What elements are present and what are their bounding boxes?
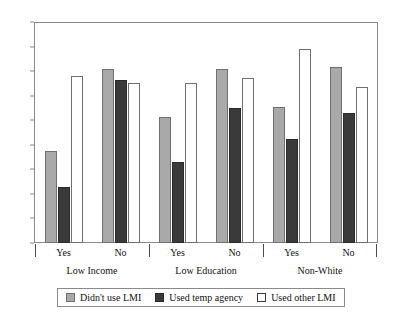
x-axis-group-separator — [149, 244, 150, 257]
bar — [286, 139, 298, 243]
x-axis-group-label: Non-White — [298, 265, 343, 276]
y-axis-tick-mark — [30, 95, 34, 96]
y-axis-tick-mark — [30, 144, 34, 145]
x-axis-group-label: Low Education — [175, 265, 236, 276]
x-axis-group-label: Low Income — [67, 265, 118, 276]
legend-item: Didn't use LMI — [66, 292, 141, 303]
bar — [229, 108, 241, 243]
x-axis-group-separator — [35, 244, 36, 257]
bar — [242, 78, 254, 243]
bar — [128, 83, 140, 243]
legend-swatch-white — [257, 293, 266, 302]
y-axis-tick-mark — [30, 193, 34, 194]
legend-item: Used temp agency — [155, 292, 243, 303]
bar — [185, 83, 197, 243]
bar — [330, 67, 342, 243]
x-axis-group-separator — [263, 244, 264, 257]
x-axis-category-label: No — [114, 247, 126, 258]
bar — [115, 80, 127, 243]
bar — [172, 162, 184, 243]
y-axis-tick-mark — [30, 22, 34, 23]
y-axis-tick-mark — [30, 218, 34, 219]
y-axis-tick-mark — [30, 120, 34, 121]
bar — [343, 113, 355, 243]
legend-swatch-gray — [66, 293, 75, 302]
bars-layer — [35, 22, 377, 243]
x-axis-category-label: No — [342, 247, 354, 258]
bar — [299, 49, 311, 243]
y-axis-tick-mark — [30, 169, 34, 170]
bar — [71, 76, 83, 243]
y-axis-tick-mark — [30, 46, 34, 47]
bar — [58, 187, 70, 243]
legend-item-label: Used other LMI — [271, 292, 335, 303]
y-axis-tick-mark — [30, 243, 34, 244]
bar — [356, 87, 368, 243]
x-axis-category-label: Yes — [284, 247, 299, 258]
y-axis: 0102030405060708090 — [0, 0, 34, 243]
legend-item-label: Used temp agency — [169, 292, 243, 303]
bar — [216, 69, 228, 243]
chart-legend: Didn't use LMIUsed temp agencyUsed other… — [57, 288, 345, 307]
bar-chart: 0102030405060708090 YesNoYesNoYesNoLow I… — [0, 0, 412, 314]
x-axis-category-label: Yes — [170, 247, 185, 258]
x-axis-category-label: No — [228, 247, 240, 258]
legend-item: Used other LMI — [257, 292, 335, 303]
x-axis-group-separator — [376, 244, 377, 257]
x-axis-category-label: Yes — [56, 247, 71, 258]
legend-swatch-black — [155, 293, 164, 302]
bar — [45, 151, 57, 243]
bar — [273, 107, 285, 243]
bar — [159, 117, 171, 243]
legend-item-label: Didn't use LMI — [80, 292, 141, 303]
bar — [102, 69, 114, 243]
y-axis-tick-mark — [30, 71, 34, 72]
